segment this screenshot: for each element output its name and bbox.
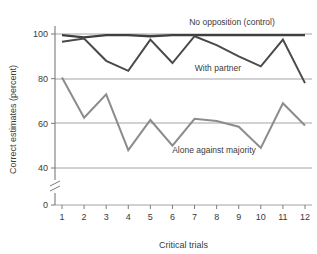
x-tick-label-8: 8 — [214, 212, 219, 222]
x-tick-label-4: 4 — [126, 212, 131, 222]
y-tick-label-100: 100 — [33, 29, 48, 39]
series-annotation-2: Alone against majority — [172, 145, 256, 155]
y-tick-label-60: 60 — [38, 119, 48, 129]
chart-container: 0406080100123456789101112No opposition (… — [0, 0, 317, 254]
x-tick-label-1: 1 — [59, 212, 64, 222]
series-line-1 — [62, 36, 305, 83]
x-tick-label-5: 5 — [148, 212, 153, 222]
y-axis-title: Correct estimates (percent) — [8, 65, 18, 174]
correct-estimates-line-chart: 0406080100123456789101112No opposition (… — [0, 0, 317, 254]
x-tick-label-11: 11 — [278, 212, 287, 222]
x-tick-label-6: 6 — [170, 212, 175, 222]
x-axis-title: Critical trials — [159, 240, 209, 250]
axis-break-icon — [50, 181, 60, 191]
x-tick-label-2: 2 — [82, 212, 87, 222]
y-tick-label-40: 40 — [38, 163, 48, 173]
x-tick-label-3: 3 — [104, 212, 109, 222]
x-tick-label-7: 7 — [192, 212, 197, 222]
series-annotation-0: No opposition (control) — [189, 17, 275, 27]
series-annotation-1: With partner — [195, 63, 241, 73]
series-line-0 — [62, 35, 305, 37]
y-tick-label-0: 0 — [43, 200, 48, 210]
x-tick-label-9: 9 — [236, 212, 241, 222]
x-tick-label-10: 10 — [256, 212, 266, 222]
y-tick-label-80: 80 — [38, 74, 48, 84]
series-line-2 — [62, 78, 305, 151]
x-tick-label-12: 12 — [300, 212, 310, 222]
